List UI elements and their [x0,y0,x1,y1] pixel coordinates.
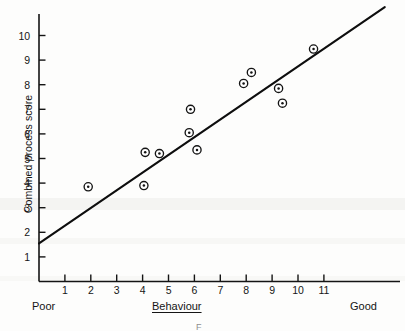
x-axis-high-anchor-label: Good [350,300,377,312]
x-axis-tick-label: 3 [114,284,120,296]
data-point-center-dot [312,48,315,51]
x-axis-tick-label: 8 [243,284,249,296]
x-axis-tick-label: 5 [166,284,172,296]
data-point-center-dot [189,108,192,111]
data-point-center-dot [158,152,161,155]
x-axis-tick-label: 10 [292,284,303,296]
x-axis-tick-label: 2 [88,284,94,296]
data-point-center-dot [277,87,280,90]
data-point [278,99,286,107]
x-axis-low-anchor-label: Poor [32,300,55,312]
data-point-center-dot [250,71,253,74]
data-point [240,79,248,87]
y-axis-title: Combined process score [22,74,34,234]
x-axis-tick-label: 1 [62,284,68,296]
y-axis-tick-label: 9 [0,54,30,66]
data-point-center-dot [143,184,146,187]
x-axis-tick-label: 9 [269,284,275,296]
data-point-center-dot [188,131,191,134]
x-axis-tick-label: 4 [140,284,146,296]
data-point-center-dot [196,149,199,152]
data-point [193,146,201,154]
x-axis-tick-label: 11 [319,284,330,296]
y-axis-tick-label: 10 [0,30,30,42]
data-point [247,68,255,76]
x-axis-title: Behaviour [152,300,202,312]
data-point [84,183,92,191]
regression-fit-line [39,7,385,243]
data-point [185,129,193,137]
caption-mark: F [196,322,202,331]
data-point [140,181,148,189]
data-point [141,148,149,156]
data-point-center-dot [144,151,147,154]
data-point [155,149,163,157]
scatter-plot-canvas [0,0,405,331]
data-point [274,84,282,92]
axis-ticks-group [39,36,324,282]
x-axis-tick-label: 6 [192,284,198,296]
x-axis-tick-label: 7 [217,284,223,296]
data-point [186,105,194,113]
data-point [309,45,317,53]
axes-group [39,14,400,282]
y-axis-tick-label: 1 [0,251,30,263]
regression-line-group [39,7,385,243]
data-point-center-dot [242,82,245,85]
data-point-center-dot [87,186,90,189]
data-point-center-dot [281,102,284,105]
figure-container: 123456789101234567891011 Combined proces… [0,0,405,331]
data-points-group [84,45,318,191]
